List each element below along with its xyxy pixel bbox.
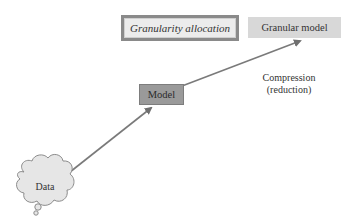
granularity-allocation-label: Granularity allocation [130,22,230,34]
compression-line-1: Compression [258,72,320,84]
data-label: Data [28,181,62,192]
granular-model-box: Granular model [248,17,341,38]
model-label: Model [148,89,175,100]
model-box: Model [139,84,184,105]
compression-line-2: (reduction) [258,84,320,96]
arrow-data-to-model [70,108,151,172]
granularity-allocation-box: Granularity allocation [121,15,239,41]
granular-model-label: Granular model [261,22,327,33]
compression-annotation: Compression (reduction) [258,72,320,96]
